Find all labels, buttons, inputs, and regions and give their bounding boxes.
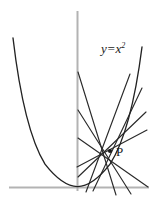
curve-equation-text: y=x (101, 41, 121, 56)
point-p-marker (108, 149, 112, 153)
figure-canvas (0, 0, 152, 203)
fan-line-1 (78, 72, 116, 195)
point-p-label: P (116, 145, 123, 158)
axes-group (9, 11, 149, 191)
fan-line-7 (78, 138, 148, 187)
parabola-diagram: y=x2 P (0, 0, 152, 203)
curve-equation-label: y=x2 (101, 42, 125, 55)
fan-lines-group (77, 72, 148, 195)
curve-equation-exponent: 2 (121, 41, 125, 50)
